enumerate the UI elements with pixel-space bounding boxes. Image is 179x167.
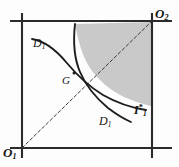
label-demand-lower-subscript: 1 — [108, 120, 112, 129]
label-demand-curve-lower: D1 — [99, 115, 111, 127]
label-origin-1-subscript: 1 — [13, 152, 17, 161]
label-demand-lower-letter: D — [99, 114, 108, 128]
label-origin-2-letter: O — [155, 6, 164, 21]
label-indifference-letter: I — [134, 103, 139, 117]
label-origin-1-letter: O — [3, 145, 12, 160]
label-origin-2-subscript: 2 — [165, 13, 169, 22]
label-equilibrium-point: G — [62, 75, 70, 86]
figure-canvas — [0, 0, 179, 167]
label-origin-1: O1 — [3, 146, 16, 159]
label-origin-2: O2 — [155, 7, 168, 20]
label-demand-curve-upper: D1 — [33, 37, 45, 49]
equilibrium-point-marker — [73, 72, 76, 75]
shaded-trade-region — [75, 22, 151, 106]
label-demand-upper-letter: D — [33, 36, 42, 50]
label-indifference-curve: I*1 — [134, 104, 147, 116]
edgeworth-box-figure: O1 O2 D1 D1 I*1 G — [0, 0, 179, 167]
label-indifference-subscript: 1 — [143, 109, 147, 118]
label-demand-upper-subscript: 1 — [42, 42, 46, 51]
